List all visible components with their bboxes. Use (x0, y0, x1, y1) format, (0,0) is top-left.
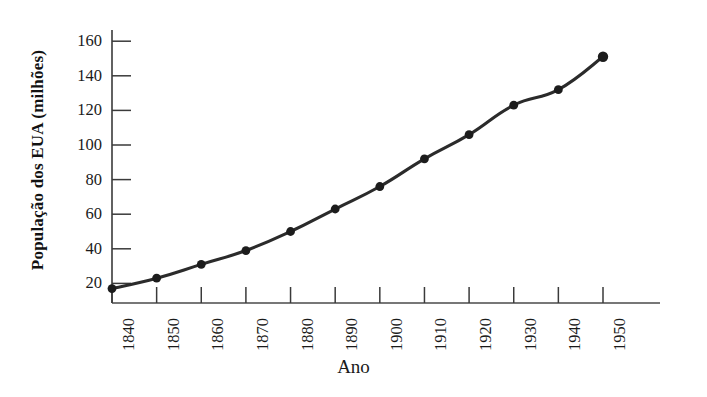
x-tick-label: 1870 (253, 318, 273, 351)
x-tick-label: 1930 (521, 318, 541, 351)
data-point (375, 182, 384, 191)
chart-figure: População dos EUA (milhões) 204060801001… (0, 0, 707, 397)
data-point (286, 227, 295, 236)
data-point (554, 85, 563, 94)
x-tick-label: 1910 (431, 318, 451, 351)
axis-lines (112, 30, 660, 303)
data-point (242, 246, 251, 255)
x-tick-label: 1880 (298, 318, 318, 351)
y-tick-label: 60 (60, 204, 102, 224)
y-tick-label: 140 (60, 66, 102, 86)
data-point (598, 52, 608, 62)
x-tick-label: 1950 (610, 318, 630, 351)
x-tick-label: 1920 (476, 318, 496, 351)
x-tick-label: 1850 (164, 318, 184, 351)
x-tick-marks (112, 287, 603, 303)
y-tick-label: 80 (60, 170, 102, 190)
y-tick-marks (112, 41, 131, 283)
data-line (112, 57, 603, 289)
y-tick-label: 120 (60, 100, 102, 120)
data-point (420, 154, 429, 163)
y-tick-label: 40 (60, 239, 102, 259)
data-point-markers (108, 52, 609, 293)
data-point (509, 101, 518, 110)
data-point (152, 274, 161, 283)
x-tick-label: 1900 (387, 318, 407, 351)
data-point (331, 205, 340, 214)
y-tick-label: 20 (60, 273, 102, 293)
x-tick-label: 1840 (119, 318, 139, 351)
data-point (108, 284, 117, 293)
data-point (465, 130, 474, 139)
x-axis-title: Ano (0, 356, 707, 378)
y-tick-label: 100 (60, 135, 102, 155)
data-point (197, 260, 206, 269)
y-tick-label: 160 (60, 31, 102, 51)
x-tick-label: 1940 (565, 318, 585, 351)
x-tick-label: 1860 (208, 318, 228, 351)
x-tick-label: 1890 (342, 318, 362, 351)
